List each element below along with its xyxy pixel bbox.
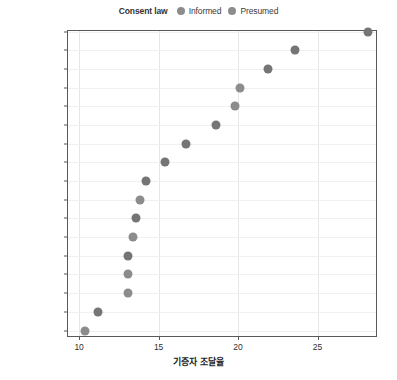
- data-point: [129, 233, 138, 242]
- x-gridline: [318, 31, 319, 336]
- y-gridline: [68, 125, 376, 126]
- chart-container: Consent law Informed Presumed 10152025Sp…: [0, 0, 397, 380]
- y-axis-tick: [64, 50, 68, 51]
- plot-area: 10152025SpainAustriaBelgiumUnited States…: [67, 30, 377, 337]
- y-axis-tick: [64, 330, 68, 331]
- data-point: [230, 102, 239, 111]
- data-point: [235, 83, 244, 92]
- y-gridline: [68, 88, 376, 89]
- data-point: [135, 195, 144, 204]
- x-axis-tick: [238, 336, 239, 340]
- legend-dot-informed: [177, 7, 185, 15]
- chart-legend: Consent law Informed Presumed: [0, 6, 397, 16]
- y-axis-tick: [64, 181, 68, 182]
- y-axis-tick: [64, 68, 68, 69]
- data-point: [124, 251, 133, 260]
- y-gridline: [68, 274, 376, 275]
- y-axis-tick: [64, 124, 68, 125]
- data-point: [264, 64, 273, 73]
- y-axis-tick: [64, 162, 68, 163]
- data-point: [181, 139, 190, 148]
- data-point: [124, 289, 133, 298]
- legend-dot-presumed: [228, 7, 236, 15]
- data-point: [124, 270, 133, 279]
- y-axis-tick: [64, 31, 68, 32]
- y-axis-tick: [64, 293, 68, 294]
- y-axis-tick: [64, 218, 68, 219]
- data-point: [211, 120, 220, 129]
- x-axis-tick: [159, 336, 160, 340]
- x-gridline: [79, 31, 80, 336]
- y-axis-tick: [64, 311, 68, 312]
- y-axis-tick: [64, 274, 68, 275]
- y-gridline: [68, 256, 376, 257]
- y-axis-tick: [64, 199, 68, 200]
- data-point: [132, 214, 141, 223]
- y-axis-tick: [64, 87, 68, 88]
- data-point: [160, 158, 169, 167]
- x-axis-tick-label: 20: [233, 342, 242, 352]
- x-gridline: [159, 31, 160, 336]
- y-gridline: [68, 32, 376, 33]
- y-gridline: [68, 293, 376, 294]
- y-gridline: [68, 237, 376, 238]
- y-gridline: [68, 106, 376, 107]
- y-axis-tick: [64, 255, 68, 256]
- legend-title: Consent law: [119, 6, 168, 16]
- y-gridline: [68, 162, 376, 163]
- data-point: [141, 177, 150, 186]
- y-axis-tick: [64, 237, 68, 238]
- x-gridline: [238, 31, 239, 336]
- y-gridline: [68, 50, 376, 51]
- x-axis-tick-label: 25: [313, 342, 322, 352]
- y-axis-tick: [64, 106, 68, 107]
- y-gridline: [68, 312, 376, 313]
- x-axis-title: 기증자 조달율: [0, 355, 397, 368]
- y-axis-tick: [64, 143, 68, 144]
- legend-entry-presumed: Presumed: [228, 6, 278, 16]
- y-gridline: [68, 181, 376, 182]
- legend-label-presumed: Presumed: [240, 6, 278, 16]
- y-gridline: [68, 69, 376, 70]
- legend-entry-informed: Informed: [177, 6, 222, 16]
- y-gridline: [68, 144, 376, 145]
- data-point: [94, 307, 103, 316]
- y-gridline: [68, 200, 376, 201]
- y-gridline: [68, 331, 376, 332]
- legend-label-informed: Informed: [189, 6, 222, 16]
- data-point: [364, 27, 373, 36]
- x-axis-tick: [79, 336, 80, 340]
- x-axis-tick-label: 10: [74, 342, 83, 352]
- x-axis-tick-label: 15: [154, 342, 163, 352]
- data-point: [81, 326, 90, 335]
- x-axis-tick: [318, 336, 319, 340]
- y-gridline: [68, 218, 376, 219]
- data-point: [291, 46, 300, 55]
